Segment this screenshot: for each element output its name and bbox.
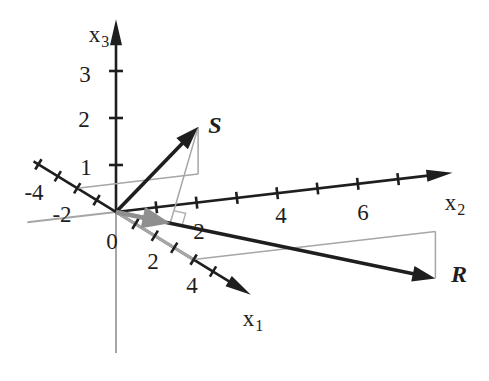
axis-label-x2: x2 <box>445 190 466 218</box>
figure-page: -4-224x1246x2123x30SR <box>0 0 489 381</box>
axis-label-x1: x1 <box>243 306 264 334</box>
origin-label: 0 <box>106 229 118 254</box>
tick-x2-1 <box>156 201 157 213</box>
tick-label-x1-2: 2 <box>147 249 159 274</box>
tick-label-x3-3: 3 <box>79 62 91 87</box>
vector-label-R: R <box>450 261 467 287</box>
axis-label-x1-subscript: 1 <box>255 317 263 334</box>
tick-label-x2-4: 4 <box>275 203 287 228</box>
x1-axis-arrowhead <box>226 276 251 295</box>
tick-label-x1--2: -2 <box>52 202 71 227</box>
axis-label-x2-subscript: 2 <box>457 201 465 218</box>
tick-label-x2-2: 2 <box>193 219 205 244</box>
tick-x2-5 <box>317 183 318 195</box>
tick-x2-3 <box>236 192 237 204</box>
x3-axis-arrowhead <box>110 19 122 45</box>
tick-x2-6 <box>357 178 358 190</box>
tick-label-x3-2: 2 <box>78 107 90 132</box>
tick-x2-7 <box>397 173 398 185</box>
tick-label-x1-4: 4 <box>186 273 198 298</box>
tick-x2-4 <box>277 187 278 199</box>
tick-x2-2 <box>196 197 197 209</box>
tick-label-x3-1: 1 <box>80 155 92 180</box>
vector-projection-figure: -4-224x1246x2123x30SR <box>0 0 489 381</box>
tick-label-x2-6: 6 <box>357 200 369 225</box>
axis-label-x3-subscript: 3 <box>101 33 109 50</box>
vector-S <box>116 135 191 212</box>
axis-label-x3: x3 <box>89 22 110 50</box>
construction-path-S-seg1 <box>77 174 198 188</box>
vector-label-S: S <box>208 112 221 138</box>
vector-R-arrowhead <box>411 266 435 282</box>
tick-label-x1--4: -4 <box>24 180 44 205</box>
negative-x2-axis <box>27 212 116 222</box>
x2-axis-arrowhead <box>426 170 453 182</box>
